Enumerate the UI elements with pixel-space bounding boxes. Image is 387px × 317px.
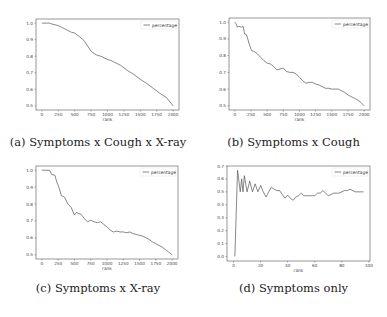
y-tick-label: 0.7 (26, 70, 33, 75)
caption-c: (c) Symptoms x X-ray (3, 281, 193, 295)
x-tick-label: 2000 (168, 112, 179, 117)
y-tick-label: 0.9 (219, 36, 226, 41)
y-tick-label: 1.0 (219, 20, 226, 25)
y-tick-label: 0.5 (219, 103, 226, 108)
y-tick-label: 1.0 (26, 21, 33, 26)
chart-c: 0250500750100012501500175020000.50.60.70… (26, 166, 178, 271)
data-line (235, 170, 364, 256)
x-tick-label: 250 (54, 261, 62, 266)
plot-frame (229, 18, 370, 110)
x-tick-label: 100 (365, 263, 373, 268)
x-tick-label: 0 (233, 112, 236, 117)
x-tick-label: 0 (232, 263, 235, 268)
y-tick-label: 0.7 (217, 164, 224, 169)
y-tick-label: 0.9 (26, 185, 33, 190)
y-tick-label: 0.7 (26, 218, 33, 223)
x-tick-label: 40 (285, 263, 291, 268)
x-axis-label: rank (294, 268, 304, 273)
y-tick-label: 0.9 (26, 37, 33, 42)
x-tick-label: 1500 (135, 112, 146, 117)
plot-frame (36, 19, 179, 110)
chart-a: 0250500750100012501500175020000.50.60.70… (26, 19, 179, 122)
x-tick-label: 1250 (118, 261, 129, 266)
legend-label: percentage (152, 23, 177, 28)
plot-frame (36, 166, 178, 259)
x-tick-label: 1750 (343, 112, 354, 117)
x-tick-label: 2000 (167, 261, 178, 266)
legend-label: percentage (343, 22, 368, 27)
x-tick-label: 500 (71, 112, 79, 117)
y-tick-label: 0.8 (26, 54, 33, 59)
x-tick-label: 80 (339, 263, 345, 268)
chart-b: 0250500750100012501500175020000.50.60.70… (219, 18, 370, 122)
x-tick-label: 500 (70, 261, 78, 266)
caption-b: (b) Symptoms x Cough (200, 135, 387, 149)
y-tick-label: 0.6 (217, 176, 224, 181)
y-tick-label: 0.6 (26, 87, 33, 92)
x-axis-label: rank (102, 266, 112, 271)
y-tick-label: 0.5 (26, 252, 33, 257)
y-tick-label: 0.8 (26, 202, 33, 207)
y-tick-label: 0.1 (217, 241, 224, 246)
y-tick-label: 0.5 (217, 189, 224, 194)
x-tick-label: 1250 (310, 112, 321, 117)
figure: 0250500750100012501500175020000.50.60.70… (0, 0, 387, 317)
x-tick-label: 0 (41, 112, 44, 117)
data-line (42, 23, 173, 106)
y-tick-label: 0.8 (219, 53, 226, 58)
x-tick-label: 1750 (151, 112, 162, 117)
y-tick-label: 0.2 (217, 228, 224, 233)
y-tick-label: 0.6 (219, 87, 226, 92)
y-tick-label: 0.5 (26, 103, 33, 108)
x-tick-label: 500 (263, 112, 271, 117)
x-tick-label: 60 (312, 263, 318, 268)
data-line (42, 170, 172, 255)
x-axis-label: rank (103, 117, 113, 122)
plots-canvas: 0250500750100012501500175020000.50.60.70… (0, 0, 387, 317)
x-tick-label: 750 (87, 261, 95, 266)
y-tick-label: 0.6 (26, 235, 33, 240)
x-axis-label: rank (295, 117, 305, 122)
y-tick-label: 0.0 (217, 254, 224, 259)
y-tick-label: 0.3 (217, 215, 224, 220)
chart-d: 0204060801000.00.10.20.30.40.50.60.7rank… (217, 164, 373, 274)
legend-label: percentage (343, 170, 368, 175)
x-tick-label: 1500 (327, 112, 338, 117)
x-tick-label: 250 (54, 112, 62, 117)
x-tick-label: 1750 (151, 261, 162, 266)
x-tick-label: 1250 (119, 112, 130, 117)
caption-a: (a) Symptoms x Cough x X-ray (3, 135, 193, 149)
y-tick-label: 0.7 (219, 70, 226, 75)
legend-label: percentage (151, 170, 176, 175)
x-tick-label: 0 (41, 261, 44, 266)
caption-d: (d) Symptoms only (200, 281, 387, 295)
x-tick-label: 750 (87, 112, 95, 117)
x-tick-label: 20 (258, 263, 264, 268)
x-tick-label: 750 (279, 112, 287, 117)
data-line (235, 22, 364, 106)
x-tick-label: 1500 (134, 261, 145, 266)
x-tick-label: 2000 (359, 112, 370, 117)
plot-frame (227, 166, 370, 261)
x-tick-label: 250 (247, 112, 255, 117)
y-tick-label: 0.4 (217, 202, 224, 207)
y-tick-label: 1.0 (26, 168, 33, 173)
